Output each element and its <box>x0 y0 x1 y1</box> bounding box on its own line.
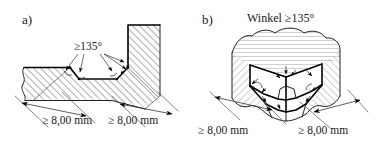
panel-a-groove-profile <box>70 68 128 80</box>
drawing-canvas: a) <box>0 0 377 145</box>
panel-a-group: a) <box>0 0 178 145</box>
panel-a-angle-label: ≥135° <box>74 40 103 52</box>
technical-drawing-figure: a) <box>0 0 377 145</box>
panel-b-title: Winkel ≥135° <box>247 11 314 25</box>
panel-b-dimension-left-label: ≥ 8,00 mm <box>198 124 248 137</box>
panel-b-front-break-line <box>268 114 306 121</box>
panel-b-dimension-right-label: ≥ 8,00 mm <box>298 124 348 137</box>
panel-a-dimension-left-label: ≥ 8,00 mm <box>42 114 92 127</box>
panel-b-label: b) <box>202 12 213 27</box>
panel-a-angle-leaders <box>66 54 126 72</box>
panel-a-label: a) <box>22 12 32 27</box>
panel-b-group: b) Winkel ≥135° <box>198 11 368 137</box>
panel-a-dimension-right-label: ≥ 8,00 mm <box>108 114 158 127</box>
